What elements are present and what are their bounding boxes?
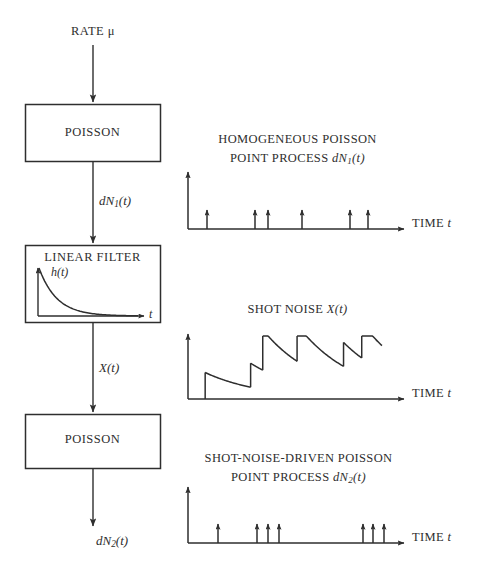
- panel-3-title-line2: POINT PROCESS dN2(t): [186, 471, 411, 485]
- flow-label-xt: X(t): [99, 361, 119, 374]
- block-label-linear-filter: LINEAR FILTER: [25, 251, 160, 264]
- impulse-train-panel-3: [218, 524, 384, 543]
- block-label-poisson-2: POISSON: [25, 433, 160, 446]
- panel-2-title-line2: SHOT NOISE X(t): [190, 303, 405, 316]
- panel-3-x-axis-label: TIME t: [412, 531, 451, 544]
- flow-label-dn1: dN1(t): [99, 194, 131, 209]
- flow-label-dn2: dN2(t): [96, 534, 128, 549]
- plot-axes-panel-3: [188, 487, 404, 543]
- shot-noise-waveform: [205, 336, 382, 399]
- block-label-poisson-1: POISSON: [25, 126, 160, 139]
- impulse-train-panel-1: [207, 210, 368, 229]
- inset-x-axis-label: t: [149, 308, 152, 320]
- input-rate-label: RATE μ: [33, 25, 153, 38]
- panel-2-x-axis-label: TIME t: [412, 387, 451, 400]
- panel-3-title-line1: SHOT-NOISE-DRIVEN POISSON: [186, 452, 411, 465]
- panel-1-title-line2: POINT PROCESS dN1(t): [190, 152, 405, 166]
- plot-axes-panel-2: [188, 334, 404, 399]
- figure-canvas: RATE μ POISSON LINEAR FILTER POISSON h(t…: [0, 0, 482, 569]
- panel-1-title-line1: HOMOGENEOUS POISSON: [190, 133, 405, 146]
- panel-1-x-axis-label: TIME t: [412, 217, 451, 230]
- inset-h-label: h(t): [51, 266, 68, 278]
- plot-axes-panel-1: [188, 172, 404, 229]
